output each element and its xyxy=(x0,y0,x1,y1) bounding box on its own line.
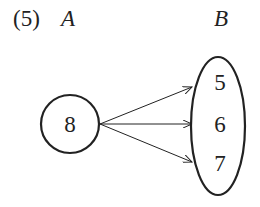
set-a-label: A xyxy=(59,6,76,31)
set-b-label: B xyxy=(214,6,228,31)
mapping-diagram: (5) A B 8 5 6 7 xyxy=(0,0,260,207)
set-b-element-6: 6 xyxy=(214,112,226,137)
problem-number: (5) xyxy=(13,6,40,31)
set-a-element: 8 xyxy=(64,112,76,137)
arrow-8-to-5 xyxy=(100,87,192,124)
set-b-element-5: 5 xyxy=(214,70,226,95)
arrow-8-to-7 xyxy=(100,124,192,162)
set-b-element-7: 7 xyxy=(214,151,226,176)
